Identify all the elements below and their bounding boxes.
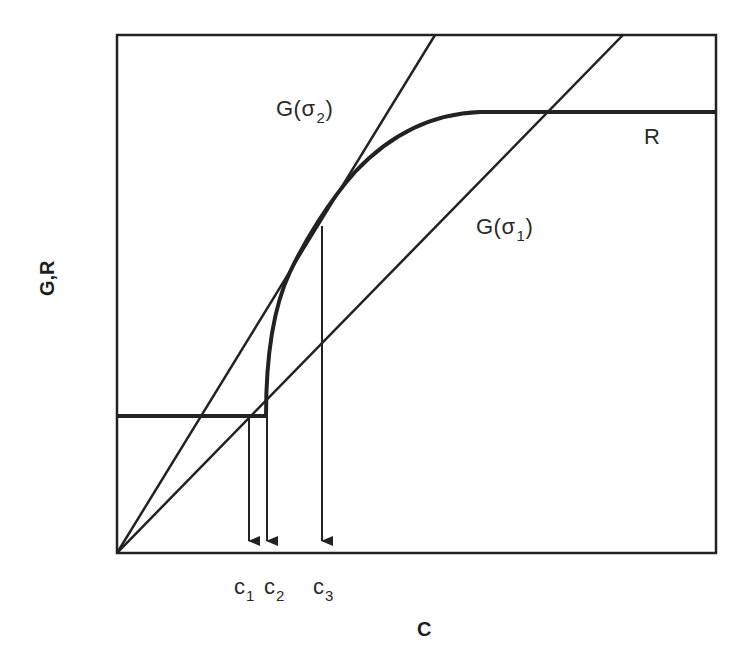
c2-label-subscript: 2 [276, 587, 284, 604]
c3-label: c3 [313, 574, 333, 600]
diagram-canvas [0, 0, 753, 663]
y-axis-label: G,R [36, 260, 59, 296]
x-axis-label: C [417, 618, 431, 641]
g-sigma2-label: G(σ2) [276, 96, 333, 122]
g-sigma2-label-subscript: 2 [317, 109, 326, 126]
g-sigma1-label-subscript: 1 [517, 227, 526, 244]
g-sigma1-label: G(σ1) [476, 214, 533, 240]
c1-label: c1 [234, 574, 254, 600]
c2-label-prefix: c [264, 574, 275, 599]
r-label: R [644, 124, 660, 150]
g-sigma1-label-suffix: ) [525, 214, 533, 239]
c3-label-subscript: 3 [325, 587, 333, 604]
c2-label: c2 [264, 574, 284, 600]
g-sigma1-label-prefix: G(σ [476, 214, 516, 239]
c1-label-subscript: 1 [246, 587, 254, 604]
r-curve [117, 112, 716, 416]
g-sigma2-label-prefix: G(σ [276, 96, 316, 121]
c1-label-prefix: c [234, 574, 245, 599]
diagram: G(σ2) G(σ1) R c1 c2 c3 C G,R [0, 0, 753, 663]
c3-label-prefix: c [313, 574, 324, 599]
g-sigma2-label-suffix: ) [325, 96, 333, 121]
